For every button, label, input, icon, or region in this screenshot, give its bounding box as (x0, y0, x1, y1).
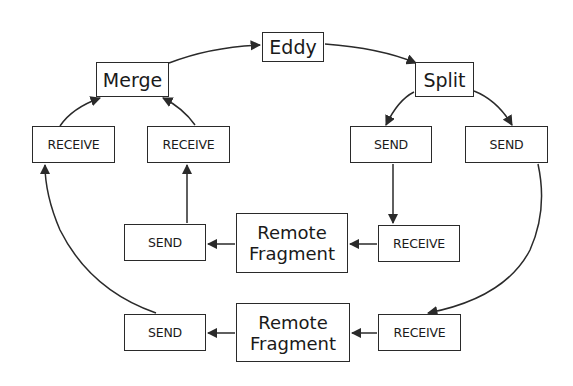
send-split-right-node: SEND (465, 126, 548, 163)
send-split-right-label: SEND (489, 137, 523, 152)
eddy-label: Eddy (269, 37, 316, 57)
merge-node: Merge (96, 62, 169, 97)
edge-split-to-send-left (386, 92, 414, 125)
edge-eddy-to-split (325, 44, 416, 63)
receive-mid-node: RECEIVE (147, 126, 230, 163)
fragment2-line2: Fragment (250, 333, 336, 354)
fragment1-line2: Fragment (249, 243, 335, 264)
remote-fragment-1-node: Remote Fragment (236, 213, 348, 273)
merge-label: Merge (103, 70, 162, 90)
send-frag2-node: SEND (124, 314, 206, 351)
fragment1-line1: Remote (257, 222, 326, 243)
remote-fragment-2-node: Remote Fragment (236, 303, 350, 362)
receive-frag1-node: RECEIVE (378, 225, 460, 262)
send-split-left-node: SEND (350, 126, 432, 163)
receive-frag2-label: RECEIVE (394, 325, 446, 340)
send-frag2-label: SEND (148, 325, 182, 340)
edge-merge-to-eddy (169, 45, 260, 63)
receive-left-label: RECEIVE (48, 137, 100, 152)
send-frag1-label: SEND (148, 235, 182, 250)
receive-mid-label: RECEIVE (163, 137, 215, 152)
send-frag1-node: SEND (124, 224, 206, 261)
split-label: Split (423, 70, 465, 90)
receive-frag1-label: RECEIVE (393, 236, 445, 251)
edge-receive-mid-to-merge (163, 98, 195, 125)
receive-frag2-node: RECEIVE (378, 314, 461, 351)
edge-split-to-send-right (474, 91, 512, 125)
split-node: Split (415, 62, 474, 97)
receive-left-node: RECEIVE (32, 126, 115, 163)
send-split-left-label: SEND (374, 137, 408, 152)
eddy-node: Eddy (262, 32, 324, 62)
fragment2-line1: Remote (258, 312, 327, 333)
edge-receive-left-to-merge (60, 98, 100, 126)
